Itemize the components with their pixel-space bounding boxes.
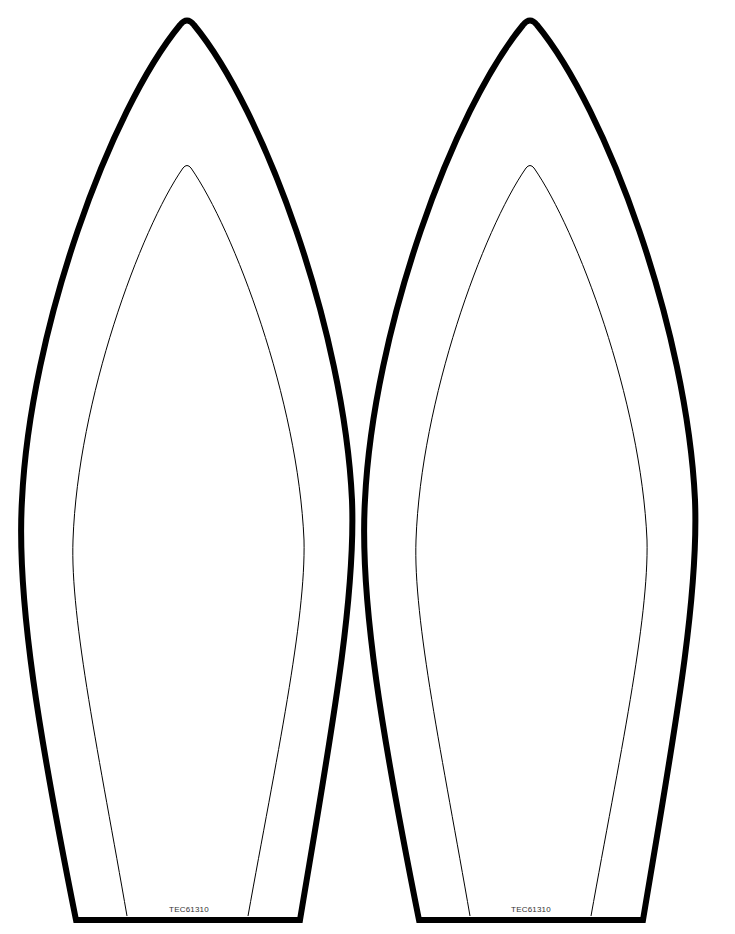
- left-ear-code-label: TEC61310: [169, 905, 209, 914]
- right-ear-code-label: TEC61310: [511, 905, 551, 914]
- ear-template-drawing: [0, 0, 735, 934]
- left-ear: [21, 21, 352, 921]
- left-ear-outer-outline: [21, 21, 352, 921]
- printable-sheet: TEC61310 TEC61310: [0, 0, 735, 934]
- right-ear-outer-outline: [364, 21, 695, 921]
- right-ear: [364, 21, 695, 921]
